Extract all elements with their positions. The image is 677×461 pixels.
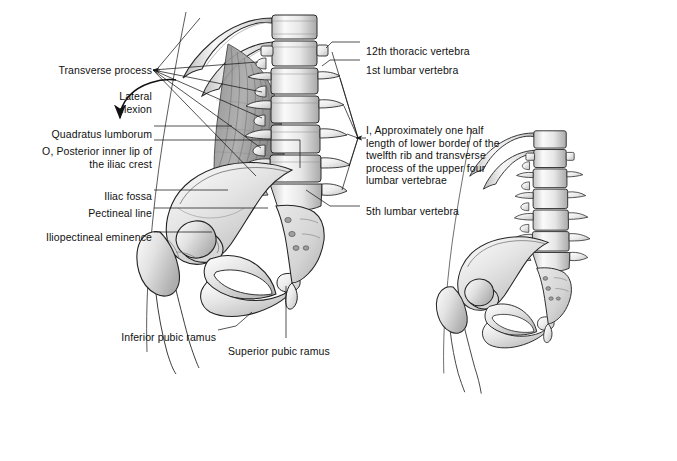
label-iliopectineal-eminence: Iliopectineal eminence <box>29 231 152 244</box>
label-superior-pubic-ramus: Superior pubic ramus <box>228 345 346 358</box>
body-outline <box>147 12 188 352</box>
label-transverse-process: Transverse process <box>48 64 152 77</box>
label-first-lumbar-vertebra: 1st lumbar vertebra <box>366 64 496 77</box>
label-twelfth-thoracic-vertebra: 12th thoracic vertebra <box>366 45 496 58</box>
label-pectineal-line: Pectineal line <box>73 207 152 220</box>
vertebra-t12 <box>272 15 317 39</box>
label-inferior-pubic-ramus: Inferior pubic ramus <box>105 331 216 344</box>
label-insertion-note: I, Approximately one half length of lowe… <box>366 124 516 187</box>
anatomy-figure: Transverse processLateral flexionQuadrat… <box>0 0 677 461</box>
label-lateral-flexion: Lateral flexion <box>92 90 152 115</box>
label-iliac-fossa: Iliac fossa <box>92 190 152 203</box>
label-quadratus-lumborum: Quadratus lumborum <box>38 128 152 141</box>
label-fifth-lumbar-vertebra: 5th lumbar vertebra <box>366 205 496 218</box>
label-posterior-inner-lip-iliac-crest: O, Posterior inner lip of the iliac cres… <box>28 145 152 170</box>
